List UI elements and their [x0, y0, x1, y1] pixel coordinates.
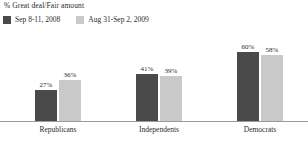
- category-label-democrats: Democrats: [244, 125, 277, 135]
- category-label-republicans: Republicans: [39, 125, 76, 135]
- axis-baseline: [0, 121, 308, 122]
- chart-title: % Great deal/Fair amount: [4, 1, 84, 10]
- bar-wrapper: 60%: [237, 30, 259, 121]
- bar-value-label: 41%: [141, 65, 154, 73]
- plot-area: 27% 36% 41% 39% 60% 58%: [0, 30, 308, 122]
- bar-series-1: [136, 74, 158, 121]
- bar-series-2: [160, 76, 182, 121]
- bar-series-2: [59, 80, 81, 121]
- legend-label-series-1: Sep 8-11, 2008: [15, 15, 60, 24]
- category-axis: Republicans Independents Democrats: [0, 125, 308, 137]
- bar-wrapper: 27%: [35, 30, 57, 121]
- legend-item-series-2: Aug 31-Sep 2, 2009: [76, 15, 148, 24]
- bar-wrapper: 39%: [160, 30, 182, 121]
- bar-group-independents: 41% 39%: [136, 30, 182, 121]
- bar-chart: % Great deal/Fair amount Sep 8-11, 2008 …: [0, 0, 308, 146]
- bar-series-1: [35, 90, 57, 121]
- bar-value-label: 27%: [40, 81, 53, 89]
- legend-swatch-icon: [3, 16, 11, 24]
- legend-item-series-1: Sep 8-11, 2008: [3, 15, 60, 24]
- chart-legend: Sep 8-11, 2008 Aug 31-Sep 2, 2009: [3, 15, 149, 24]
- legend-label-series-2: Aug 31-Sep 2, 2009: [88, 15, 148, 24]
- bar-series-2: [261, 55, 283, 121]
- legend-swatch-icon: [76, 16, 84, 24]
- bar-group-democrats: 60% 58%: [237, 30, 283, 121]
- bar-value-label: 58%: [266, 46, 279, 54]
- bar-group-republicans: 27% 36%: [35, 30, 81, 121]
- bar-value-label: 36%: [64, 71, 77, 79]
- category-label-independents: Independents: [139, 125, 179, 135]
- bar-wrapper: 41%: [136, 30, 158, 121]
- bar-series-1: [237, 52, 259, 121]
- bar-value-label: 60%: [242, 43, 255, 51]
- bar-value-label: 39%: [165, 67, 178, 75]
- bar-wrapper: 36%: [59, 30, 81, 121]
- bar-wrapper: 58%: [261, 30, 283, 121]
